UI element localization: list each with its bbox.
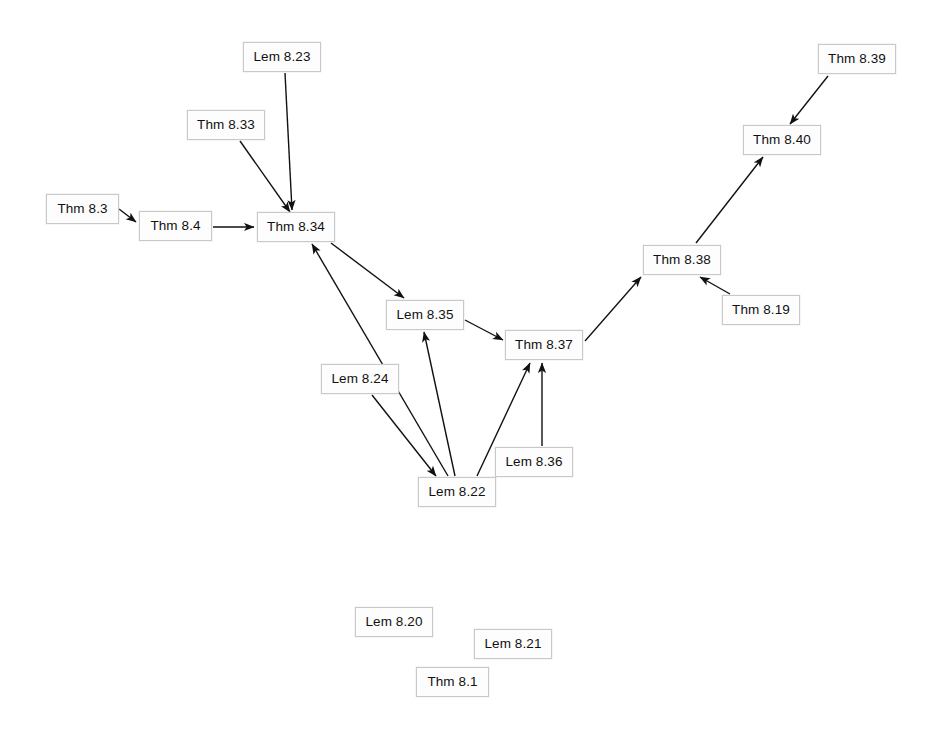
diagram-canvas: Thm 8.3Thm 8.4Lem 8.23Thm 8.33Thm 8.34Le… bbox=[0, 0, 937, 739]
node-thm-8-19[interactable]: Thm 8.19 bbox=[722, 295, 800, 325]
node-lem-8-21[interactable]: Lem 8.21 bbox=[474, 629, 552, 659]
node-lem-8-22[interactable]: Lem 8.22 bbox=[418, 477, 496, 507]
node-thm-8-1[interactable]: Thm 8.1 bbox=[416, 667, 489, 697]
node-thm-8-34[interactable]: Thm 8.34 bbox=[257, 212, 335, 242]
node-thm-8-4[interactable]: Thm 8.4 bbox=[139, 211, 212, 241]
node-thm-8-37[interactable]: Thm 8.37 bbox=[505, 330, 583, 360]
node-lem-8-20[interactable]: Lem 8.20 bbox=[355, 607, 433, 637]
node-thm-8-39[interactable]: Thm 8.39 bbox=[818, 44, 896, 74]
node-thm-8-3[interactable]: Thm 8.3 bbox=[46, 194, 119, 224]
node-lem-8-24[interactable]: Lem 8.24 bbox=[321, 364, 399, 394]
node-thm-8-40[interactable]: Thm 8.40 bbox=[743, 125, 821, 155]
node-thm-8-38[interactable]: Thm 8.38 bbox=[643, 245, 721, 275]
node-thm-8-33[interactable]: Thm 8.33 bbox=[187, 110, 265, 140]
node-lem-8-35[interactable]: Lem 8.35 bbox=[386, 300, 464, 330]
node-lem-8-36[interactable]: Lem 8.36 bbox=[495, 447, 573, 477]
node-lem-8-23[interactable]: Lem 8.23 bbox=[243, 42, 321, 72]
node-layer: Thm 8.3Thm 8.4Lem 8.23Thm 8.33Thm 8.34Le… bbox=[0, 0, 937, 739]
